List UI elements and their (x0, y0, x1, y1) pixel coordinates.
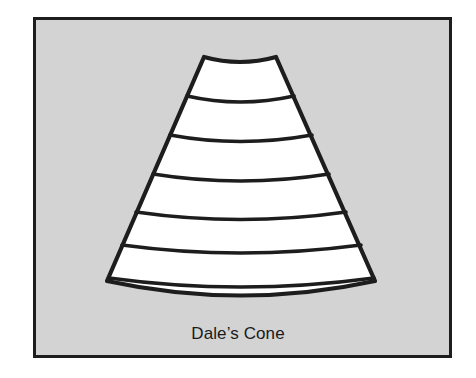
figure-panel (33, 17, 452, 358)
figure-root: Dale’s Cone (0, 0, 476, 378)
figure-caption: Dale’s Cone (0, 324, 476, 344)
